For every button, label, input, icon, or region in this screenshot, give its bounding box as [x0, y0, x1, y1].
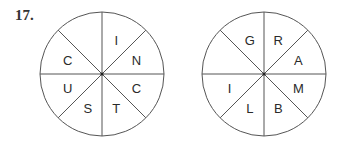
wheel-center-dot	[263, 73, 266, 76]
segment-letter: M	[293, 81, 304, 96]
left-wheel: INCTSUC	[40, 12, 164, 136]
segment-letter: I	[114, 33, 118, 48]
segment-letter: S	[83, 101, 92, 116]
segment-letter: U	[63, 81, 72, 96]
segment-letter: I	[228, 81, 232, 96]
right-wheel: GRAMBLI	[202, 12, 326, 136]
wheel-center-dot	[101, 73, 104, 76]
segment-letter: G	[245, 33, 255, 48]
segment-letter: T	[112, 101, 120, 116]
segment-letter: N	[132, 53, 141, 68]
segment-letter: C	[132, 81, 141, 96]
letter-wheels-figure: INCTSUC GRAMBLI	[0, 0, 343, 149]
segment-letter: B	[274, 101, 283, 116]
segment-letter: C	[63, 53, 72, 68]
segment-letter: R	[274, 33, 283, 48]
segment-letter: A	[294, 53, 303, 68]
segment-letter: L	[246, 101, 253, 116]
